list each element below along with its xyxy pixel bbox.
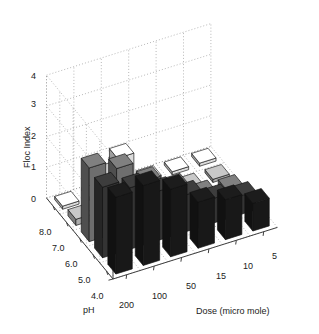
bar <box>217 185 241 240</box>
bar <box>163 174 187 256</box>
y-axis-title: pH <box>83 305 95 315</box>
bar <box>108 182 132 274</box>
y-tick-6: 6.0 <box>65 259 78 269</box>
z-tick-4: 4 <box>31 71 36 81</box>
bar <box>135 171 159 266</box>
z-axis-title: Floc Index <box>22 126 32 168</box>
bar <box>190 187 214 248</box>
figure-3d-bar-chart: 4 3 2 1 0 Floc Index 8.0 7.0 6.0 5.0 4.0… <box>0 0 319 334</box>
y-tick-4: 4.0 <box>91 291 104 301</box>
z-tick-0: 0 <box>31 194 36 204</box>
y-tick-7: 7.0 <box>52 243 65 253</box>
x-axis-title: Dose (micro mole) <box>196 306 270 316</box>
x-tick-5: 5 <box>272 251 277 261</box>
x-tick-200: 200 <box>119 300 134 310</box>
x-tick-10: 10 <box>243 261 253 271</box>
x-tick-50: 50 <box>186 281 196 291</box>
y-tick-8: 8.0 <box>39 227 52 237</box>
bar <box>245 189 269 232</box>
chart-canvas <box>0 0 319 334</box>
bar <box>192 148 216 166</box>
x-tick-15: 15 <box>216 271 226 281</box>
y-tick-5: 5.0 <box>78 275 91 285</box>
z-tick-3: 3 <box>31 99 36 109</box>
x-tick-100: 100 <box>152 291 167 301</box>
